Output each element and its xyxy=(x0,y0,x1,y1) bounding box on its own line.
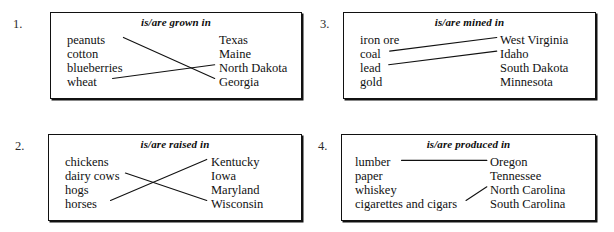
right-item[interactable]: Georgia xyxy=(219,75,287,89)
match-line-peanuts-georgia xyxy=(123,37,214,78)
match-line-wheat-north-dakota xyxy=(113,65,215,79)
exercise-number: 1. xyxy=(13,18,22,31)
right-item[interactable]: Maine xyxy=(219,47,287,61)
exercise-number: 2. xyxy=(15,140,24,153)
exercise-heading: is/are produced in xyxy=(342,138,595,150)
right-item[interactable]: West Virginia xyxy=(500,33,568,47)
right-item[interactable]: Minnesota xyxy=(500,75,568,89)
right-column: Texas Maine North Dakota Georgia xyxy=(219,33,287,89)
left-item[interactable]: iron ore xyxy=(360,33,399,47)
exercise-box: is/are mined in iron ore coal lead gold … xyxy=(343,12,596,99)
left-column: peanuts cotton blueberries wheat xyxy=(67,33,123,89)
left-column: lumber paper whiskey cigarettes and ciga… xyxy=(355,155,457,211)
left-item[interactable]: horses xyxy=(65,197,120,211)
right-item[interactable]: South Dakota xyxy=(500,61,568,75)
left-item[interactable]: blueberries xyxy=(67,61,123,75)
left-column: chickens dairy cows hogs horses xyxy=(65,155,120,211)
left-item[interactable]: gold xyxy=(360,75,399,89)
exercise-heading: is/are mined in xyxy=(344,16,595,28)
exercise-heading: is/are grown in xyxy=(51,16,301,28)
left-item[interactable]: dairy cows xyxy=(65,169,120,183)
exercise-number: 3. xyxy=(320,18,329,31)
right-item[interactable]: Wisconsin xyxy=(211,197,263,211)
match-line-lead-idaho xyxy=(389,51,497,65)
right-item[interactable]: South Carolina xyxy=(490,197,565,211)
match-line-horses-kentucky xyxy=(111,159,207,200)
right-item[interactable]: Texas xyxy=(219,33,287,47)
left-item[interactable]: cigarettes and cigars xyxy=(355,197,457,211)
right-item[interactable]: North Carolina xyxy=(490,183,565,197)
right-item[interactable]: North Dakota xyxy=(219,61,287,75)
match-line-cigarettes-north-carolina xyxy=(466,187,487,201)
right-column: Kentucky Iowa Maryland Wisconsin xyxy=(211,155,263,211)
exercise-box: is/are grown in peanuts cotton blueberri… xyxy=(50,12,302,99)
exercise-number: 4. xyxy=(318,140,327,153)
left-item[interactable]: chickens xyxy=(65,155,120,169)
right-item[interactable]: Maryland xyxy=(211,183,263,197)
right-item[interactable]: Kentucky xyxy=(211,155,263,169)
right-item[interactable]: Idaho xyxy=(500,47,568,61)
exercise-box: is/are raised in chickens dairy cows hog… xyxy=(48,134,302,221)
left-item[interactable]: wheat xyxy=(67,75,123,89)
left-item[interactable]: coal xyxy=(360,47,399,61)
match-line-dairy-cows-wisconsin xyxy=(125,173,206,200)
right-item[interactable]: Iowa xyxy=(211,169,263,183)
right-item[interactable]: Tennessee xyxy=(490,169,565,183)
left-item[interactable]: paper xyxy=(355,169,457,183)
right-column: Oregon Tennessee North Carolina South Ca… xyxy=(490,155,565,211)
match-line-coal-west-virginia xyxy=(390,37,497,51)
exercise-heading: is/are raised in xyxy=(49,138,301,150)
right-column: West Virginia Idaho South Dakota Minneso… xyxy=(500,33,568,89)
left-item[interactable]: lumber xyxy=(355,155,457,169)
exercise-box: is/are produced in lumber paper whiskey … xyxy=(341,134,596,221)
right-item[interactable]: Oregon xyxy=(490,155,565,169)
left-item[interactable]: hogs xyxy=(65,183,120,197)
left-item[interactable]: cotton xyxy=(67,47,123,61)
left-item[interactable]: whiskey xyxy=(355,183,457,197)
left-item[interactable]: lead xyxy=(360,61,399,75)
left-column: iron ore coal lead gold xyxy=(360,33,399,89)
matching-worksheet: 1. is/are grown in peanuts cotton bluebe… xyxy=(0,0,614,232)
left-item[interactable]: peanuts xyxy=(67,33,123,47)
